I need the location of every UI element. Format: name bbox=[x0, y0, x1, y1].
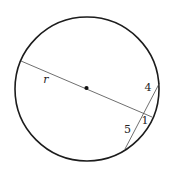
circle-diagram-svg: r 4 1 5 bbox=[0, 0, 169, 173]
radius-label: r bbox=[43, 73, 49, 86]
chord-segment-4-label: 4 bbox=[145, 81, 152, 94]
center-point bbox=[84, 86, 88, 90]
geometry-figure: r 4 1 5 bbox=[0, 0, 169, 173]
line-segment-1-label: 1 bbox=[142, 114, 149, 127]
chord-segment-5-label: 5 bbox=[124, 123, 131, 136]
